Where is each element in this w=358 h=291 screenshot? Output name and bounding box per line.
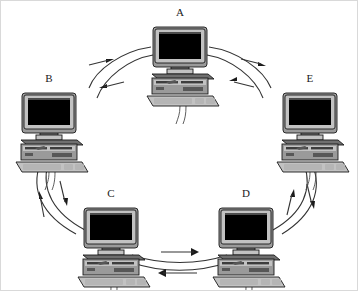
- node-d[interactable]: D: [213, 187, 285, 291]
- ring-diagram-canvas: A B E C D: [1, 1, 358, 291]
- ring-network-diagram: A B E C D: [0, 0, 358, 291]
- link-a-b: [89, 47, 153, 98]
- node-a-label: A: [176, 6, 184, 18]
- node-d-label: D: [242, 187, 250, 199]
- node-b-label: B: [45, 72, 53, 84]
- node-c[interactable]: C: [78, 187, 150, 291]
- node-a[interactable]: A: [147, 6, 219, 124]
- node-c-label: C: [107, 187, 115, 199]
- node-b[interactable]: B: [16, 72, 88, 190]
- link-a-e: [207, 47, 271, 98]
- node-e-label: E: [307, 72, 314, 84]
- node-e[interactable]: E: [277, 72, 349, 190]
- link-b-c: [37, 164, 85, 234]
- link-c-d: [130, 248, 229, 277]
